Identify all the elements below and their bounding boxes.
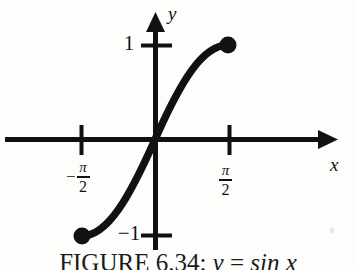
curve-endpoint-left-dot: [74, 228, 91, 245]
figure-container: y x 1 −1 − π 2 π 2 FIGURE 6.34: y = sin …: [0, 0, 356, 270]
x-axis-arrowhead: [318, 130, 338, 149]
minus-sign: −: [66, 168, 76, 186]
figure-caption-equation-rhs: sin x: [250, 249, 297, 270]
y-axis-arrowhead: [146, 12, 165, 32]
figure-caption-equation-eq: =: [230, 249, 244, 270]
y-axis-label: y: [168, 4, 176, 23]
curve-endpoint-right-dot: [220, 37, 237, 54]
figure-caption-equation-lhs: y: [213, 249, 224, 270]
page-speck: [330, 228, 334, 233]
sine-plot-svg: [0, 0, 356, 270]
figure-caption-prefix: FIGURE 6.34:: [59, 249, 206, 270]
x-tick-label-neg-half-pi: − π 2: [66, 160, 90, 195]
fraction-stack: π 2: [77, 160, 90, 195]
x-tick-label-half-pi: π 2: [219, 163, 232, 198]
fraction-denominator-two: 2: [220, 181, 232, 198]
fraction-numerator-pi: π: [220, 163, 232, 179]
y-tick-label-neg-one: −1: [112, 223, 146, 244]
x-axis-label: x: [330, 155, 338, 174]
fraction-denominator-two: 2: [77, 178, 89, 195]
fraction-stack: π 2: [219, 163, 232, 198]
figure-caption: FIGURE 6.34: y = sin x: [0, 250, 356, 270]
fraction-numerator-pi: π: [77, 160, 89, 176]
y-tick-label-one: 1: [118, 33, 140, 54]
